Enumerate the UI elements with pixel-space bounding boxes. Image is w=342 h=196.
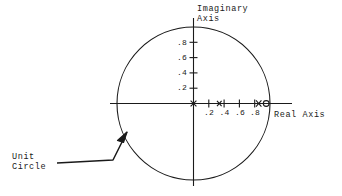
unit-circle-callout-arrow	[57, 132, 127, 163]
unit-circle-annotation: Unit Circle	[12, 152, 46, 172]
real-axis-title: Real Axis	[274, 110, 325, 120]
x-tick-label-2: .6	[235, 108, 245, 118]
imaginary-axis-title: Imaginary Axis	[197, 4, 248, 24]
y-tick-label-1: .4	[177, 68, 187, 78]
x-tick-label-0: .2	[204, 108, 214, 118]
y-tick-label-2: .6	[177, 53, 187, 63]
x-tick-label-1: .4	[220, 108, 230, 118]
pole-zero-plot	[0, 0, 342, 196]
y-tick-label-0: .2	[177, 83, 187, 93]
y-tick-label-3: .8	[177, 38, 187, 48]
x-tick-label-3: .8	[250, 108, 260, 118]
